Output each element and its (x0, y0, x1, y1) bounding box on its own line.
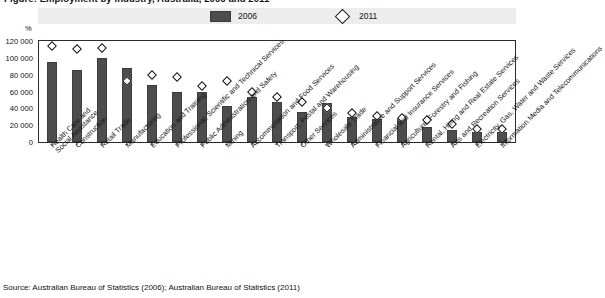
page-title: Figure: Employment by industry, Australi… (4, 0, 269, 4)
diamond-marker-2011[interactable] (197, 82, 207, 92)
legend-item-2011: 2011 (335, 11, 377, 22)
diamond-marker-2011[interactable] (97, 43, 107, 53)
diamond-marker-2011[interactable] (72, 44, 82, 54)
diamond-marker-2011[interactable] (147, 70, 157, 80)
diamond-swatch-icon (335, 8, 351, 24)
legend-item-2006: 2006 (210, 11, 257, 22)
y-axis-tick-label: 20 000 (10, 121, 33, 130)
y-axis-tick-label: 100 000 (6, 53, 33, 62)
figure-title-strip: Figure: Employment by industry, Australi… (0, 0, 522, 7)
bar-swatch-icon (210, 11, 231, 22)
legend-label-2006: 2006 (238, 12, 257, 21)
diamond-marker-2011[interactable] (172, 72, 182, 82)
chart-category-slot[interactable] (39, 41, 64, 142)
bar-2006[interactable] (47, 62, 57, 142)
y-axis-unit-label: % (25, 24, 32, 33)
y-axis-tick-label: 120 000 (6, 37, 33, 46)
x-axis-labels: Health Care andSocial AssistanceConstruc… (38, 144, 522, 262)
source-note: Source: Australian Bureau of Statistics … (3, 283, 300, 292)
y-axis-tick-label: 80 000 (10, 70, 33, 79)
y-axis-labels: 020 00040 00060 00080 000100 000120 000 (0, 40, 36, 143)
y-axis-tick-label: 60 000 (10, 87, 33, 96)
legend-label-2011: 2011 (359, 12, 377, 21)
y-axis-tick-label: 0 (29, 138, 33, 147)
chart-legend: 2006 2011 (38, 8, 516, 24)
diamond-marker-2011[interactable] (222, 76, 232, 86)
diamond-marker-2011[interactable] (47, 41, 57, 51)
y-axis-tick-label: 40 000 (10, 104, 33, 113)
